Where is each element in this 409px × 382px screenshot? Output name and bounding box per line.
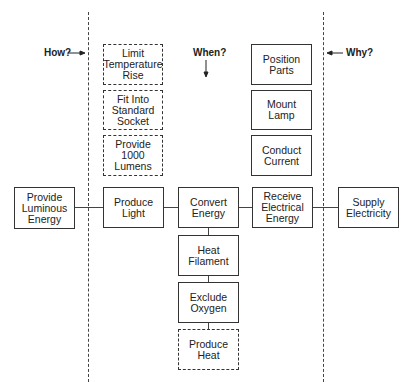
- fast-diagram: How? When? Why? Limit Temperature Rise F…: [0, 0, 409, 382]
- why-arrow-icon: [327, 51, 343, 55]
- why-label: Why?: [346, 47, 373, 58]
- box-conduct-current: Conduct Current: [251, 135, 312, 176]
- box-position-parts: Position Parts: [251, 44, 312, 85]
- connector-exclude-produceheat: [208, 322, 209, 329]
- box-supply-electricity: Supply Electricity: [338, 187, 399, 228]
- connector-light-convert: [163, 207, 178, 208]
- box-produce-heat: Produce Heat: [178, 329, 239, 370]
- box-fit-into-standard-socket: Fit Into Standard Socket: [103, 90, 163, 130]
- box-receive-electrical-energy: Receive Electrical Energy: [252, 187, 313, 228]
- box-convert-energy: Convert Energy: [178, 187, 239, 228]
- box-heat-filament: Heat Filament: [178, 235, 239, 276]
- box-limit-temperature-rise: Limit Temperature Rise: [103, 44, 163, 85]
- connector-receive-supply: [312, 207, 338, 208]
- box-produce-light: Produce Light: [103, 187, 164, 228]
- when-arrow-icon: [204, 60, 208, 77]
- box-mount-lamp: Mount Lamp: [251, 90, 312, 130]
- when-label: When?: [193, 47, 226, 58]
- connector-convert-heat: [208, 227, 209, 235]
- box-provide-luminous-energy: Provide Luminous Energy: [14, 187, 75, 229]
- box-provide-1000-lumens: Provide 1000 Lumens: [103, 135, 163, 176]
- how-label: How?: [44, 47, 71, 58]
- box-exclude-oxygen: Exclude Oxygen: [178, 282, 239, 323]
- connector-heat-exclude: [208, 275, 209, 282]
- connector-luminous-light: [74, 207, 103, 208]
- connector-convert-receive: [238, 207, 252, 208]
